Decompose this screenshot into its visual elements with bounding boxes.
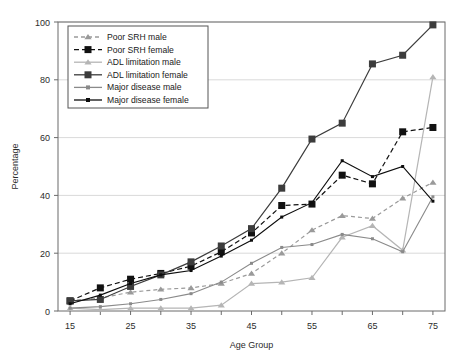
series-4-point-4 [190, 292, 193, 295]
series-5-point-5 [220, 255, 223, 258]
series-3-point-11 [399, 52, 406, 59]
legend-label-3: ADL limitation female [107, 70, 188, 80]
y-axis-label: Percentage [10, 143, 20, 189]
legend-label-1: Poor SRH female [107, 45, 174, 55]
series-5-point-6 [250, 239, 253, 242]
x-axis-label: Age Group [230, 340, 274, 350]
series-1-point-2 [127, 276, 134, 283]
series-4-point-7 [280, 246, 283, 249]
series-3-point-1 [97, 296, 104, 303]
series-3-point-10 [369, 60, 376, 67]
series-1-point-7 [278, 202, 285, 209]
series-5-point-4 [190, 269, 193, 272]
series-1-point-1 [97, 284, 104, 291]
series-5-point-10 [371, 175, 374, 178]
series-4-point-0 [69, 307, 72, 310]
legend-label-5: Major disease female [107, 95, 189, 105]
series-line-4 [70, 197, 433, 308]
series-5-point-7 [280, 216, 283, 219]
legend-label-4: Major disease male [107, 82, 182, 92]
series-5-point-0 [69, 302, 72, 305]
x-tick-label-65: 65 [367, 321, 377, 331]
series-1-point-9 [339, 172, 346, 179]
series-0-point-12 [429, 179, 436, 184]
series-3-point-12 [429, 21, 436, 28]
series-4-point-3 [159, 298, 162, 301]
series-3-point-9 [339, 120, 346, 127]
y-tick-label-60: 60 [40, 133, 50, 143]
series-0-point-11 [399, 195, 406, 200]
y-tick-label-100: 100 [35, 18, 50, 28]
series-4-point-12 [431, 195, 434, 198]
series-3-point-8 [308, 136, 315, 143]
y-tick-label-40: 40 [40, 191, 50, 201]
series-5-point-12 [431, 200, 434, 203]
x-tick-label-35: 35 [186, 321, 196, 331]
x-tick-label-15: 15 [65, 321, 75, 331]
series-4-point-5 [220, 281, 223, 284]
legend-marker-4 [86, 85, 90, 89]
x-tick-label-75: 75 [428, 321, 438, 331]
legend-label-2: ADL limitation male [107, 57, 181, 67]
series-1-point-11 [399, 128, 406, 135]
series-2-point-10 [369, 223, 376, 228]
series-5-point-11 [401, 165, 404, 168]
series-5-point-9 [341, 159, 344, 162]
series-4-point-9 [341, 233, 344, 236]
series-1-point-10 [369, 180, 376, 187]
y-tick-label-20: 20 [40, 249, 50, 259]
series-3-point-5 [218, 242, 225, 249]
series-5-point-8 [310, 201, 313, 204]
x-tick-label-25: 25 [126, 321, 136, 331]
series-5-point-2 [129, 282, 132, 285]
series-5-point-1 [99, 294, 102, 297]
legend-marker-5 [86, 98, 90, 102]
series-4-point-10 [371, 237, 374, 240]
series-1-point-12 [429, 124, 436, 131]
line-chart: 02040608010015253545556575Age GroupPerce… [0, 0, 458, 356]
legend-label-0: Poor SRH male [107, 32, 167, 42]
series-3-point-7 [278, 185, 285, 192]
series-4-point-8 [310, 243, 313, 246]
y-tick-label-80: 80 [40, 75, 50, 85]
legend-marker-1 [85, 46, 92, 53]
series-3-point-6 [248, 225, 255, 232]
series-2-point-12 [429, 74, 436, 79]
chart-canvas: 02040608010015253545556575Age GroupPerce… [0, 0, 458, 356]
series-4-point-6 [250, 262, 253, 265]
series-3-point-4 [188, 258, 195, 265]
series-4-point-2 [129, 302, 132, 305]
y-tick-label-0: 0 [45, 307, 50, 317]
series-0-point-6 [248, 270, 255, 275]
series-5-point-3 [159, 273, 162, 276]
x-tick-label-55: 55 [307, 321, 317, 331]
series-4-point-11 [401, 250, 404, 253]
series-0-point-8 [308, 227, 315, 232]
series-4-point-1 [99, 305, 102, 308]
x-tick-label-45: 45 [246, 321, 256, 331]
legend-marker-3 [85, 71, 92, 78]
series-2-point-8 [308, 275, 315, 280]
